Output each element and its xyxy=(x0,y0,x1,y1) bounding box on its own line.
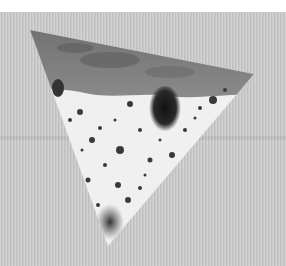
specimen-triangle xyxy=(0,0,286,266)
image-frame xyxy=(0,0,286,266)
